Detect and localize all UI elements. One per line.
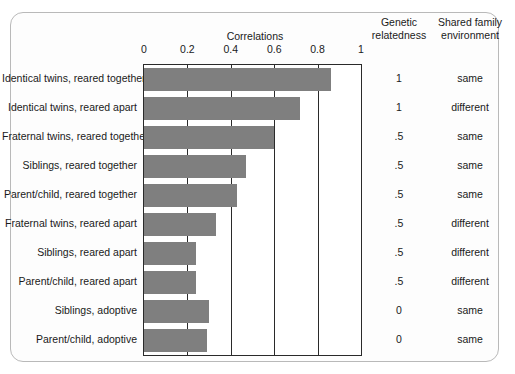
bar-row[interactable] xyxy=(144,94,361,123)
category-label: Parent/child, reared together xyxy=(2,180,137,209)
x-tick-label: 0.8 xyxy=(303,43,333,55)
annotation-row: .5different xyxy=(362,267,512,296)
shared-family-environment-value: different xyxy=(428,209,512,238)
bar[interactable] xyxy=(144,97,300,120)
bar[interactable] xyxy=(144,300,209,323)
bar[interactable] xyxy=(144,271,196,294)
shared-family-environment-value: same xyxy=(428,151,512,180)
bar[interactable] xyxy=(144,242,196,265)
x-tick-label: 0.6 xyxy=(259,43,289,55)
bar-row[interactable] xyxy=(144,297,361,326)
column-header-genetic-relatedness: Genetic relatedness xyxy=(368,16,430,41)
bar-row[interactable] xyxy=(144,210,361,239)
category-label: Identical twins, reared together xyxy=(2,64,137,93)
bar-chart-plot-area: 00.20.40.60.81 xyxy=(143,64,362,356)
bar[interactable] xyxy=(144,184,237,207)
annotation-row: 1same xyxy=(362,64,512,93)
bar-row[interactable] xyxy=(144,326,361,355)
bar[interactable] xyxy=(144,126,274,149)
bar[interactable] xyxy=(144,68,331,91)
shared-family-environment-value: same xyxy=(428,64,512,93)
bar-row[interactable] xyxy=(144,152,361,181)
genetic-relatedness-value: .5 xyxy=(368,122,430,151)
x-tick-label: 0 xyxy=(129,43,159,55)
bar-row[interactable] xyxy=(144,181,361,210)
category-axis-labels: Identical twins, reared togetherIdentica… xyxy=(0,64,137,354)
genetic-header-line2: relatedness xyxy=(368,29,430,42)
bar[interactable] xyxy=(144,155,246,178)
genetic-relatedness-value: .5 xyxy=(368,267,430,296)
genetic-relatedness-value: .5 xyxy=(368,209,430,238)
shared-family-environment-value: different xyxy=(428,93,512,122)
chart-title: Correlations xyxy=(205,30,305,42)
genetic-relatedness-value: .5 xyxy=(368,238,430,267)
genetic-header-line1: Genetic xyxy=(368,16,430,29)
shared-family-environment-value: same xyxy=(428,122,512,151)
annotation-columns: 1same1different.5same.5same.5same.5diffe… xyxy=(362,64,512,354)
category-label: Fraternal twins, reared apart xyxy=(2,209,137,238)
column-header-shared-family-environment: Shared family environment xyxy=(428,16,512,41)
bar-row[interactable] xyxy=(144,239,361,268)
annotation-row: 1different xyxy=(362,93,512,122)
x-tick-label: 0.4 xyxy=(216,43,246,55)
genetic-relatedness-value: 1 xyxy=(368,64,430,93)
bar-row[interactable] xyxy=(144,268,361,297)
bar-row[interactable] xyxy=(144,123,361,152)
category-label: Identical twins, reared apart xyxy=(2,93,137,122)
bar-row[interactable] xyxy=(144,65,361,94)
x-tick-label: 0.2 xyxy=(172,43,202,55)
annotation-row: .5same xyxy=(362,180,512,209)
annotation-row: .5different xyxy=(362,238,512,267)
annotation-row: .5same xyxy=(362,151,512,180)
bar[interactable] xyxy=(144,213,216,236)
bar[interactable] xyxy=(144,329,207,352)
category-label: Siblings, adoptive xyxy=(2,296,137,325)
genetic-relatedness-value: 0 xyxy=(368,296,430,325)
shared-family-environment-value: different xyxy=(428,267,512,296)
genetic-relatedness-value: 0 xyxy=(368,325,430,354)
category-label: Fraternal twins, reared together xyxy=(2,122,137,151)
shared-family-environment-value: different xyxy=(428,238,512,267)
annotation-row: .5same xyxy=(362,122,512,151)
shared-header-line2: environment xyxy=(428,29,512,42)
category-label: Siblings, reared together xyxy=(2,151,137,180)
genetic-relatedness-value: 1 xyxy=(368,93,430,122)
genetic-relatedness-value: .5 xyxy=(368,180,430,209)
x-tick-label: 1 xyxy=(346,43,376,55)
genetic-relatedness-value: .5 xyxy=(368,151,430,180)
shared-family-environment-value: same xyxy=(428,180,512,209)
category-label: Parent/child, adoptive xyxy=(2,325,137,354)
category-label: Siblings, reared apart xyxy=(2,238,137,267)
shared-header-line1: Shared family xyxy=(428,16,512,29)
annotation-row: 0same xyxy=(362,296,512,325)
shared-family-environment-value: same xyxy=(428,296,512,325)
annotation-row: .5different xyxy=(362,209,512,238)
annotation-row: 0same xyxy=(362,325,512,354)
shared-family-environment-value: same xyxy=(428,325,512,354)
category-label: Parent/child, reared apart xyxy=(2,267,137,296)
